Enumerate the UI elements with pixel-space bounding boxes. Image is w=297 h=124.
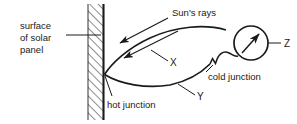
hot-junction-label-group: hot junction [105,76,156,110]
wire-y-label-group: Y [178,84,204,102]
wire-x-label-group: X [151,50,177,68]
wire-y-leader-line [178,84,195,95]
cold-junction-label: cold junction [208,71,261,82]
surface-label-line1: surface [20,20,51,31]
wire-y-lower-curve [105,64,211,86]
thermocouple-diagram: surface of solar panel Sun's rays Z [0,0,297,124]
meter-z-label-group: Z [268,38,290,49]
cold-junction-kink [210,58,218,64]
hot-junction-label: hot junction [107,99,156,110]
hot-junction-leader-line [105,76,112,96]
meter-needle [242,34,259,53]
wire-x-leader-line [151,50,168,61]
surface-label-line3: panel [20,44,43,55]
solar-panel-surface [88,4,104,120]
suns-rays-group: Sun's rays [120,7,216,58]
galvanometer [234,26,268,60]
sun-ray-arrow-lower [124,31,178,58]
cold-junction-label-group: cold junction [206,65,261,82]
surface-label-line2: of solar [20,32,51,43]
wire-x-upper-curve [105,27,227,75]
wire-x-label: X [170,57,177,68]
wire-y-label: Y [197,91,204,102]
wire-to-meter-lower [218,52,239,58]
wall-hatching [88,4,103,120]
diagram-canvas: surface of solar panel Sun's rays Z [0,0,297,124]
suns-rays-label: Sun's rays [172,7,216,18]
meter-z-label: Z [284,38,290,49]
